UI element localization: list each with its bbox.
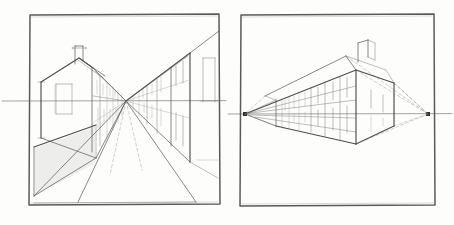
road-receding-lines bbox=[34, 101, 196, 203]
gabled-house-left bbox=[38, 46, 105, 158]
fence-hatching bbox=[36, 127, 94, 194]
height-measure-marks bbox=[196, 58, 219, 160]
perspective-study-svg bbox=[0, 0, 454, 225]
building-near-corner bbox=[245, 56, 394, 144]
right-panel-frame bbox=[240, 14, 435, 206]
right-row-houses bbox=[126, 31, 219, 178]
chimney-right-building bbox=[358, 40, 375, 62]
construction-guide-lines bbox=[245, 56, 428, 144]
sketch-sheet bbox=[0, 0, 454, 225]
facade-window-grid bbox=[247, 76, 383, 140]
left-row-houses bbox=[93, 68, 126, 158]
left-panel-frame bbox=[29, 14, 220, 205]
right-panel bbox=[228, 14, 452, 206]
gable-window bbox=[55, 84, 72, 114]
hatched-fence-wall bbox=[34, 125, 96, 196]
left-panel bbox=[2, 14, 226, 205]
